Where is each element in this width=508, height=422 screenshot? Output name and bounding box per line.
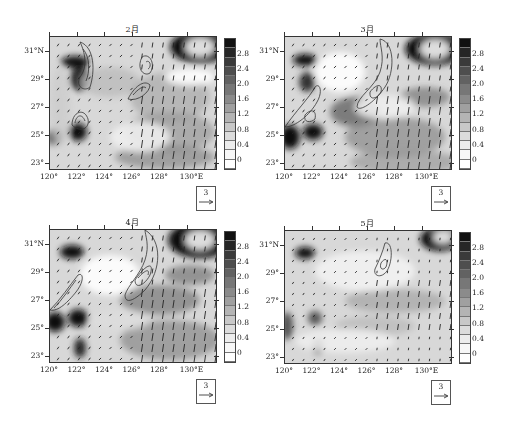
colorbar-segment (460, 261, 470, 270)
x-tick-label: 128° (150, 172, 168, 181)
colorbar-segment (225, 325, 235, 334)
colorbar-label: 2.8 (472, 243, 484, 252)
x-tick-label: 130°E (415, 366, 439, 375)
colorbar-segment (460, 326, 470, 335)
x-tick-mark (187, 225, 188, 229)
x-tick-mark (77, 32, 78, 36)
arrow-right-icon (198, 392, 214, 398)
y-tick-mark (280, 51, 285, 52)
y-tick-mark-right (214, 135, 219, 136)
colorbar-segment (225, 334, 235, 343)
x-tick-label: 126° (357, 172, 375, 181)
colorbar-segment (225, 150, 235, 159)
y-tick-mark-right (214, 163, 219, 164)
y-tick-mark-right (449, 357, 454, 358)
x-tick-label: 128° (150, 365, 168, 374)
y-tick-label: 23° (239, 158, 279, 167)
y-tick-mark-right (449, 245, 454, 246)
colorbar-segment (225, 353, 235, 362)
panel-feb: 2月31°N29°27°25°23°120°122°124°126°128°13… (0, 0, 254, 211)
map-plot (284, 230, 452, 364)
x-tick-label: 124° (95, 172, 113, 181)
y-tick-mark (45, 356, 50, 357)
y-tick-label: 25° (4, 130, 44, 139)
y-tick-mark-right (214, 272, 219, 273)
colorbar-segment (460, 104, 470, 113)
map-plot (49, 36, 217, 170)
colorbar-segment (225, 160, 235, 169)
x-tick-label: 128° (385, 172, 403, 181)
colorbar-segment (225, 132, 235, 141)
y-tick-label: 27° (4, 102, 44, 111)
panel-apr: 4月31°N29°27°25°23°120°122°124°126°128°13… (0, 193, 254, 404)
map-plot (49, 229, 217, 363)
colorbar-label: 1.6 (472, 94, 484, 103)
colorbar-segment (460, 132, 470, 141)
colorbar-label: 2.4 (472, 258, 484, 267)
colorbar-segment (225, 260, 235, 269)
x-tick-mark (284, 32, 285, 36)
reference-vector-value: 3 (432, 382, 450, 391)
x-tick-label: 126° (357, 366, 375, 375)
y-tick-mark-right (449, 301, 454, 302)
y-tick-mark (45, 135, 50, 136)
y-tick-mark (45, 79, 50, 80)
x-tick-label: 130°E (180, 172, 204, 181)
colorbar-label: 1.2 (472, 303, 484, 312)
field-heatmap (285, 37, 451, 169)
y-tick-label: 27° (4, 295, 44, 304)
colorbar-segment (460, 252, 470, 261)
colorbar-segment (225, 288, 235, 297)
colorbar-segment (460, 123, 470, 132)
x-tick-mark (49, 225, 50, 229)
colorbar-segment (460, 335, 470, 344)
colorbar-segment (460, 150, 470, 159)
y-tick-mark (280, 273, 285, 274)
x-tick-mark (339, 226, 340, 230)
x-tick-mark (104, 225, 105, 229)
reference-vector-legend: 3 (431, 380, 451, 405)
colorbar-label: 2.0 (472, 273, 484, 282)
colorbar-segment (460, 344, 470, 353)
y-tick-mark (280, 357, 285, 358)
colorbar-segment (225, 343, 235, 352)
colorbar-segment (460, 279, 470, 288)
colorbar-segment (460, 48, 470, 57)
y-tick-mark (280, 107, 285, 108)
x-tick-mark (104, 32, 105, 36)
colorbar-segment (225, 48, 235, 57)
x-tick-mark (284, 226, 285, 230)
y-tick-mark (45, 244, 50, 245)
y-tick-mark-right (214, 356, 219, 357)
colorbar-label: 0 (472, 155, 477, 164)
x-tick-mark (159, 225, 160, 229)
y-tick-mark-right (214, 328, 219, 329)
x-tick-mark (394, 32, 395, 36)
colorbar-segment (460, 354, 470, 363)
x-tick-label: 126° (122, 365, 140, 374)
colorbar-segment (225, 241, 235, 250)
y-tick-label: 31°N (239, 46, 279, 55)
y-tick-label: 27° (239, 296, 279, 305)
x-tick-mark (367, 32, 368, 36)
colorbar (459, 38, 471, 170)
colorbar-segment (460, 113, 470, 122)
colorbar-segment (225, 67, 235, 76)
colorbar-label: 0 (472, 349, 477, 358)
colorbar-segment (225, 39, 235, 48)
colorbar-segment (460, 160, 470, 169)
reference-vector-value: 3 (197, 381, 215, 390)
colorbar-label: 0.4 (472, 334, 484, 343)
colorbar-segment (460, 307, 470, 316)
colorbar-segment (225, 104, 235, 113)
y-tick-label: 29° (239, 74, 279, 83)
y-tick-mark-right (449, 135, 454, 136)
colorbar-segment (225, 58, 235, 67)
colorbar-label: 0.4 (472, 140, 484, 149)
y-tick-label: 25° (4, 323, 44, 332)
field-heatmap (50, 230, 216, 362)
y-tick-mark-right (214, 244, 219, 245)
x-tick-mark (77, 225, 78, 229)
panel-mar: 3月31°N29°27°25°23°120°122°124°126°128°13… (235, 0, 489, 211)
y-tick-mark (280, 163, 285, 164)
